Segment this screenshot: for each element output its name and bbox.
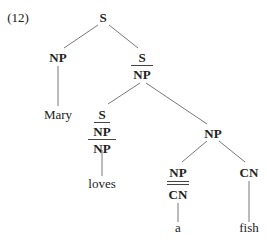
det-denominator: CN (169, 188, 188, 201)
object-np-node: NP (204, 127, 221, 140)
edge-s-np (64, 25, 98, 48)
vp-numerator: S (138, 51, 145, 64)
word-a: a (175, 221, 181, 234)
root-s-node: S (99, 11, 106, 24)
edge-np-det (182, 141, 207, 162)
edge-vp-verb (108, 83, 140, 104)
tree-edges (0, 0, 267, 240)
cn-node: CN (240, 166, 259, 179)
edge-s-vp (109, 25, 138, 48)
vp-denominator: NP (133, 68, 150, 81)
word-loves: loves (88, 177, 115, 190)
example-number: (12) (7, 11, 29, 24)
word-mary: Mary (44, 108, 72, 121)
edge-vp-object (146, 83, 207, 124)
edge-np-cn (219, 141, 245, 162)
verb-middle: NP (93, 125, 110, 138)
word-fish: fish (239, 221, 259, 234)
verb-top: S (98, 108, 105, 121)
verb-bottom: NP (93, 142, 110, 155)
det-double-bar-top (167, 181, 189, 182)
det-double-bar-bottom (167, 184, 189, 185)
subject-np-node: NP (49, 51, 66, 64)
det-numerator: NP (169, 166, 186, 179)
